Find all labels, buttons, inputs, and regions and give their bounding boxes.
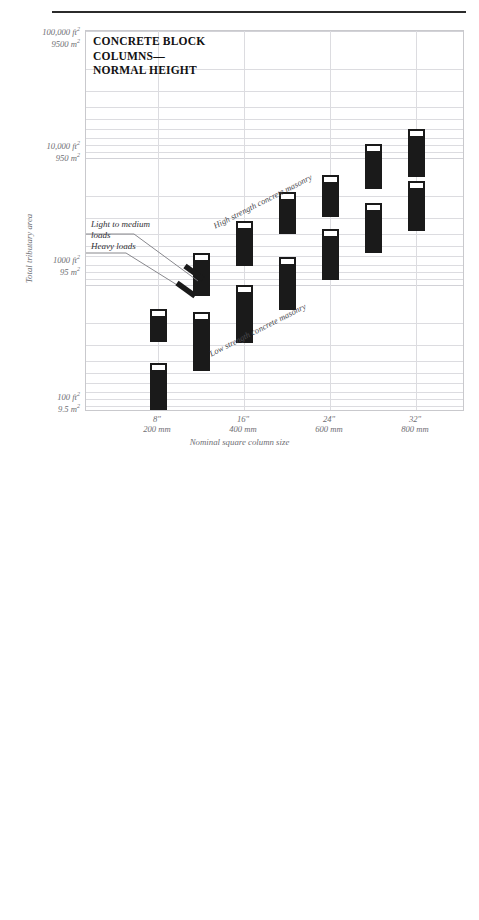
- bar-low-20in: [279, 257, 296, 310]
- bar-cap: [365, 144, 382, 153]
- title-line-1: CONCRETE BLOCK: [93, 34, 205, 49]
- xtick-32in: 32" 800 mm: [375, 414, 455, 435]
- bar-low-28in: [365, 203, 382, 253]
- chart-normal-height: 100,000 ft2 9500 m2 10,000 ft2 950 m2 10…: [0, 0, 479, 460]
- bar-low-12in: [193, 312, 210, 371]
- bar-high-28in: [365, 144, 382, 189]
- bar-high-12in: [193, 253, 210, 296]
- bar-cap: [150, 309, 167, 318]
- bar-cap: [236, 285, 253, 294]
- callout-light-line2: loads: [91, 230, 150, 241]
- gridline-x-8in: [158, 31, 159, 410]
- bar-cap: [365, 203, 382, 212]
- bar-high-16in: [236, 221, 253, 266]
- bar-high-8in: [150, 309, 167, 342]
- bar-cap: [322, 175, 339, 184]
- callout-light-line1: Light to medium: [91, 219, 150, 230]
- figure-page: 100,000 ft2 9500 m2 10,000 ft2 950 m2 10…: [0, 0, 479, 920]
- xtick-24in: 24" 600 mm: [289, 414, 369, 435]
- bar-cap: [408, 181, 425, 190]
- title-line-3: NORMAL HEIGHT: [93, 63, 205, 78]
- title-line-2: COLUMNS—: [93, 49, 205, 64]
- callout-light-to-medium-loads: Light to medium loads Light to medium lo…: [91, 219, 150, 241]
- bar-cap: [193, 312, 210, 321]
- bar-cap: [279, 257, 296, 266]
- chart-tall: 32' 9.8 m 24' 7.3 m 16' 4.9 m 8' 2.4 m U…: [0, 460, 479, 920]
- ytick-100000: 100,000 ft2 9500 m2: [4, 25, 80, 50]
- bar-low-24in: [322, 229, 339, 280]
- bar-cap: [408, 129, 425, 138]
- band-label-low-strength: Low strength concrete masonry: [208, 301, 308, 358]
- gridline-x-24in: [330, 31, 331, 410]
- callout-heavy-loads: Heavy loads: [91, 241, 136, 252]
- bar-low-32in: [408, 181, 425, 231]
- bar-high-32in: [408, 129, 425, 177]
- chart-title-normal-height: CONCRETE BLOCK COLUMNS— NORMAL HEIGHT: [93, 34, 205, 78]
- xtick-16in: 16" 400 mm: [203, 414, 283, 435]
- xtick-8in: 8" 200 mm: [117, 414, 197, 435]
- bar-cap: [150, 363, 167, 372]
- bar-cap: [193, 253, 210, 262]
- ytick-10000: 10,000 ft2 950 m2: [4, 139, 80, 164]
- ytick-1000: 1000 ft2 95 m2: [4, 253, 80, 278]
- band-label-high-strength: High strength concrete masonry: [212, 172, 314, 230]
- ytick-100: 100 ft2 9.5 m2: [4, 390, 80, 415]
- bar-cap: [236, 221, 253, 230]
- bar-cap: [322, 229, 339, 238]
- bar-low-8in: [150, 363, 167, 411]
- y-axis-caption-top: Total tributary area: [24, 214, 34, 283]
- bar-high-20in: [279, 192, 296, 234]
- x-axis-caption-top: Nominal square column size: [0, 437, 479, 447]
- bar-high-24in: [322, 175, 339, 217]
